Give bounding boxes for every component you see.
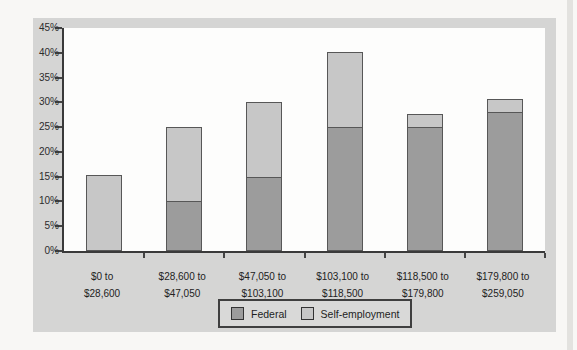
y-axis-tick-label: 25% bbox=[35, 121, 59, 132]
scan-edge-shadow bbox=[567, 0, 573, 350]
y-axis-tick-label: 45% bbox=[35, 22, 59, 33]
x-axis-category-label: $28,600 to$47,050 bbox=[142, 268, 222, 302]
x-axis-category-label: $0 to$28,600 bbox=[62, 268, 142, 302]
bar-group bbox=[327, 51, 363, 251]
legend-label-federal: Federal bbox=[251, 308, 287, 320]
bar-group bbox=[166, 126, 202, 251]
bar-group bbox=[487, 98, 523, 251]
x-label-line1: $0 to bbox=[62, 268, 142, 285]
x-axis-tick bbox=[223, 253, 225, 258]
y-axis-tick-label: 15% bbox=[35, 171, 59, 182]
bar-self-employment-segment bbox=[407, 114, 443, 128]
x-axis-category-label: $47,050 to$103,100 bbox=[222, 268, 302, 302]
y-axis-tick-label: 5% bbox=[35, 220, 59, 231]
bar-self-employment-segment bbox=[246, 102, 282, 178]
x-axis-tick bbox=[384, 253, 386, 258]
x-label-line1: $179,800 to bbox=[463, 268, 543, 285]
y-axis-tick-label: 0% bbox=[35, 245, 59, 256]
x-label-line1: $103,100 to bbox=[303, 268, 383, 285]
bar-group bbox=[407, 113, 443, 251]
x-axis-category-label: $179,800 to$259,050 bbox=[463, 268, 543, 302]
scanned-chart-page: 45%40%35%30%25%20%15%10%5%0% $0 to$28,60… bbox=[0, 0, 577, 350]
y-axis-tick-label: 30% bbox=[35, 96, 59, 107]
x-label-line1: $28,600 to bbox=[142, 268, 222, 285]
bar-federal-segment bbox=[166, 201, 202, 251]
chart-panel: 45%40%35%30%25%20%15%10%5%0% $0 to$28,60… bbox=[33, 18, 556, 332]
x-axis-tick bbox=[464, 253, 466, 258]
x-axis-tick bbox=[304, 253, 306, 258]
federal-swatch-icon bbox=[231, 307, 244, 320]
y-axis-tick-label: 40% bbox=[35, 47, 59, 58]
y-axis-tick-label: 20% bbox=[35, 146, 59, 157]
bar-federal-segment bbox=[327, 127, 363, 251]
legend-label-self-employment: Self-employment bbox=[321, 308, 400, 320]
legend-item-federal: Federal bbox=[231, 307, 287, 320]
y-axis-tick-label: 10% bbox=[35, 195, 59, 206]
x-label-line2: $47,050 bbox=[142, 285, 222, 302]
legend: Federal Self-employment bbox=[218, 299, 412, 328]
self-employment-swatch-icon bbox=[301, 307, 314, 320]
bar-self-employment-segment bbox=[166, 127, 202, 203]
bar-self-employment-segment bbox=[327, 52, 363, 128]
x-label-line1: $118,500 to bbox=[383, 268, 463, 285]
bar-group bbox=[246, 101, 282, 251]
x-label-line2: $259,050 bbox=[463, 285, 543, 302]
bar-federal-segment bbox=[487, 112, 523, 251]
x-axis-tick bbox=[143, 253, 145, 258]
x-axis-category-label: $103,100 to$118,500 bbox=[303, 268, 383, 302]
legend-item-self-employment: Self-employment bbox=[301, 307, 400, 320]
bar-federal-segment bbox=[407, 127, 443, 251]
y-axis-tick-label: 35% bbox=[35, 72, 59, 83]
bar-self-employment-segment bbox=[487, 99, 523, 113]
x-axis-tick bbox=[544, 253, 546, 258]
x-axis-category-label: $118,500 to$179,800 bbox=[383, 268, 463, 302]
bar-federal-segment bbox=[246, 177, 282, 251]
x-label-line1: $47,050 to bbox=[222, 268, 302, 285]
x-label-line2: $28,600 bbox=[62, 285, 142, 302]
bar-self-employment-segment bbox=[86, 175, 122, 251]
bar-group bbox=[86, 175, 122, 251]
plot-area bbox=[62, 28, 545, 253]
